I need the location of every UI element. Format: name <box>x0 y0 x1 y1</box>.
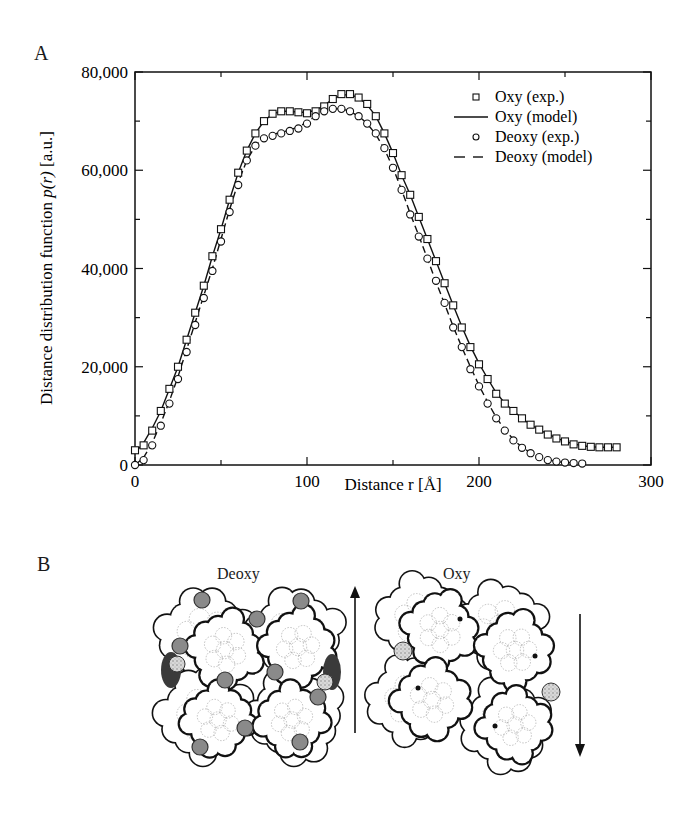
heme-marker-icon <box>267 664 283 680</box>
up-arrow-icon <box>350 586 360 733</box>
heme-marker-icon <box>237 720 253 736</box>
deoxy-molecule-illustration <box>152 587 347 768</box>
heme-marker-icon <box>293 593 309 609</box>
heme-marker-icon <box>542 683 560 701</box>
heme-marker-icon <box>192 739 208 755</box>
heme-marker-icon <box>172 638 188 654</box>
down-arrow-icon <box>575 614 585 757</box>
heme-marker-icon <box>394 642 412 660</box>
oxy-molecule-illustration <box>364 570 560 775</box>
heme-marker-icon <box>194 592 210 608</box>
hemoglobin-structures <box>0 0 694 818</box>
heme-marker-icon <box>310 689 326 705</box>
heme-marker-icon <box>292 734 308 750</box>
heme-marker-icon <box>217 672 233 688</box>
heme-marker-icon <box>249 611 265 627</box>
